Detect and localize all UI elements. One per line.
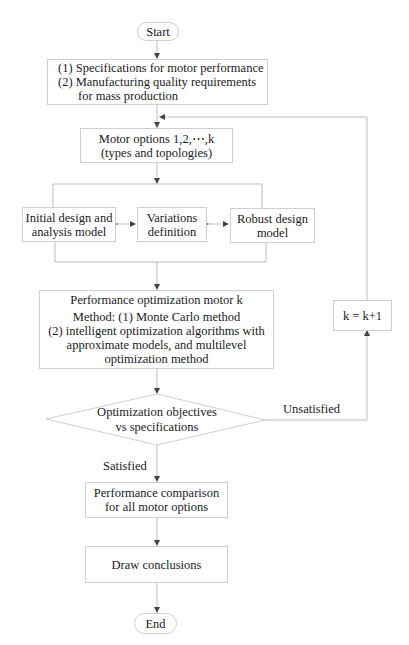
perf-opt-line-1: Performance optimization motor k <box>48 293 265 307</box>
variations-line-1: Variations <box>147 211 198 225</box>
end-label: End <box>145 617 165 631</box>
conclusions-label: Draw conclusions <box>112 558 202 572</box>
decision-text: Optimization objectives vs specification… <box>77 405 237 435</box>
motor-options-line-1: Motor options 1,2,⋯,k <box>99 132 214 146</box>
comparison-line-2: for all motor options <box>94 500 219 514</box>
conclusions-box: Draw conclusions <box>85 546 228 583</box>
comparison-box: Performance comparison for all motor opt… <box>85 482 228 518</box>
decision-line-1: Optimization objectives <box>77 405 237 420</box>
decision-line-2: vs specifications <box>77 420 237 435</box>
initial-design-line-2: analysis model <box>26 225 113 239</box>
specs-line-1: (1) Specifications for motor performance <box>58 61 263 75</box>
robust-design-line-2: model <box>237 226 308 240</box>
variations-line-2: definition <box>147 225 198 239</box>
perf-opt-line-2: Method: (1) Monte Carlo method <box>48 310 265 324</box>
unsatisfied-label: Unsatisfied <box>283 402 340 416</box>
end-terminal: End <box>134 613 177 634</box>
increment-label: k = k+1 <box>343 309 382 323</box>
robust-design-box: Robust design model <box>230 208 315 243</box>
increment-k-box: k = k+1 <box>333 300 392 331</box>
comparison-line-1: Performance comparison <box>94 486 219 500</box>
specs-line-2: (2) Manufacturing quality requirements <box>58 75 263 89</box>
specifications-box: (1) Specifications for motor performance… <box>47 59 268 105</box>
motor-options-box: Motor options 1,2,⋯,k (types and topolog… <box>80 128 233 163</box>
initial-design-line-1: Initial design and <box>26 211 113 225</box>
motor-options-line-2: (types and topologies) <box>99 146 214 160</box>
start-label: Start <box>146 25 170 39</box>
variations-box: Variations definition <box>137 207 207 242</box>
specs-line-3: for mass production <box>58 89 263 103</box>
start-terminal: Start <box>137 22 179 41</box>
satisfied-label: Satisfied <box>103 459 147 473</box>
robust-design-line-1: Robust design <box>237 212 308 226</box>
perf-opt-line-4: approximate models, and multilevel <box>48 338 265 352</box>
perf-opt-line-3: (2) intelligent optimization algorithms … <box>48 324 265 338</box>
performance-optimization-box: Performance optimization motor k Method:… <box>39 290 274 369</box>
perf-opt-line-5: optimization method <box>48 352 265 366</box>
initial-design-box: Initial design and analysis model <box>22 207 116 242</box>
